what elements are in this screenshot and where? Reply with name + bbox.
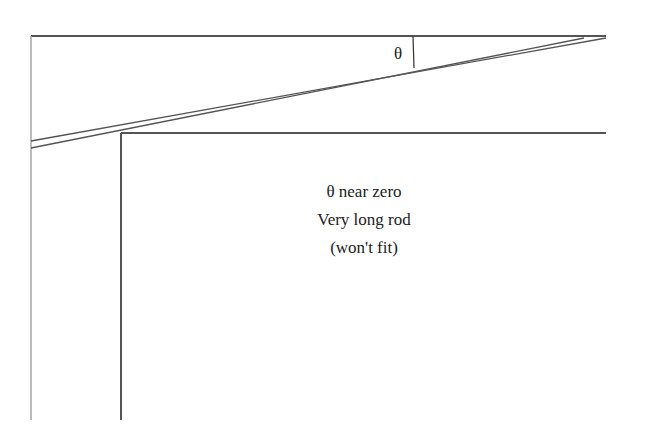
caption-line-3: (won't fit) — [330, 238, 398, 257]
corridor-rod-diagram: θ θ near zero Very long rod (won't fit) — [0, 0, 648, 433]
caption-line-1: θ near zero — [326, 182, 401, 201]
caption-line-2: Very long rod — [317, 210, 411, 229]
theta-label: θ — [394, 44, 402, 63]
rod-lower-edge — [31, 38, 584, 148]
angle-marker — [413, 36, 414, 68]
rod-upper-edge — [31, 38, 606, 141]
